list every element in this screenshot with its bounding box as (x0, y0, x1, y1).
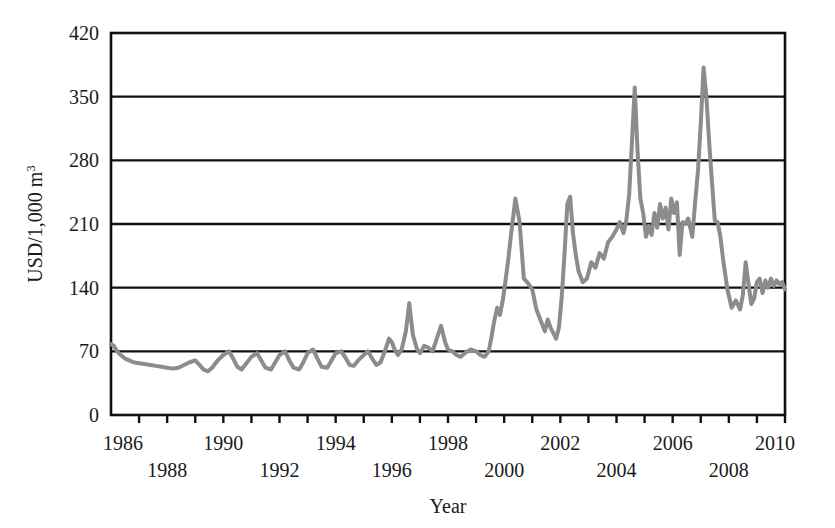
data-series-group (111, 68, 785, 372)
series-line-price (111, 68, 785, 372)
ytick-label-70: 70 (79, 340, 99, 362)
xtick-label-2004: 2004 (597, 459, 637, 481)
y-axis-title-text: USD/1,000 m (24, 171, 46, 283)
y-axis-tick-labels: 070140210280350420 (69, 22, 99, 426)
ytick-label-210: 210 (69, 213, 99, 235)
xtick-label-1998: 1998 (428, 432, 468, 454)
xtick-label-2002: 2002 (540, 432, 580, 454)
ytick-label-0: 0 (89, 404, 99, 426)
xtick-label-2000: 2000 (484, 459, 524, 481)
xtick-label-1990: 1990 (203, 432, 243, 454)
y-axis-title: USD/1,000 m3 (23, 165, 46, 283)
xtick-label-2008: 2008 (709, 459, 749, 481)
xtick-label-2006: 2006 (653, 432, 693, 454)
x-axis-title: Year (430, 495, 467, 517)
y-axis-title-superscript: 3 (23, 165, 38, 172)
ytick-label-280: 280 (69, 149, 99, 171)
xtick-label-1996: 1996 (372, 459, 412, 481)
ytick-label-140: 140 (69, 277, 99, 299)
ytick-label-350: 350 (69, 86, 99, 108)
chart-container: 070140210280350420 198619901994199820022… (0, 0, 835, 528)
x-axis-tick-labels-bottom: 198819921996200020042008 (147, 459, 749, 481)
xtick-label-2010: 2010 (755, 432, 795, 454)
line-chart: 070140210280350420 198619901994199820022… (0, 0, 835, 528)
xtick-label-1988: 1988 (147, 459, 187, 481)
xtick-label-1994: 1994 (316, 432, 356, 454)
ytick-label-420: 420 (69, 22, 99, 44)
x-axis-tick-labels-top: 1986199019941998200220062010 (103, 432, 795, 454)
xtick-label-1986: 1986 (103, 432, 143, 454)
xtick-label-1992: 1992 (260, 459, 300, 481)
